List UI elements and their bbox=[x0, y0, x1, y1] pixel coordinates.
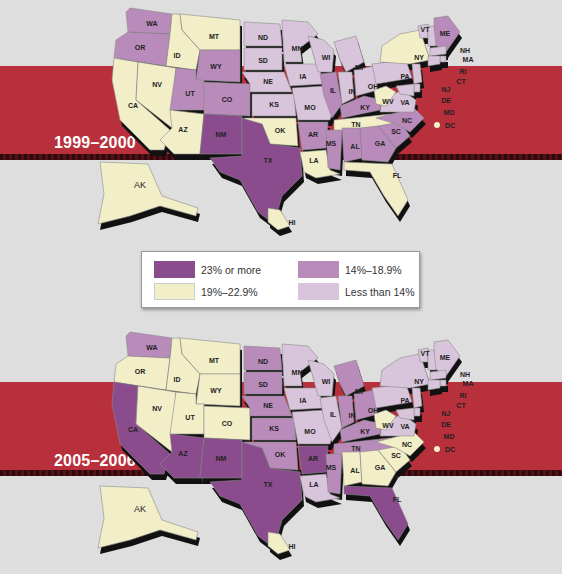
legend-swatch bbox=[298, 261, 339, 278]
state-label-ut: UT bbox=[185, 90, 194, 97]
state-label-de: DE bbox=[441, 421, 451, 428]
state-label-nj: NJ bbox=[442, 86, 451, 93]
state-label-mi: MI bbox=[355, 388, 363, 395]
state-label-ky: KY bbox=[360, 104, 370, 111]
us-map-1999-2000: WAORCANVIDMTWYUTCOAZNMNDSDNEKSOKTXMNIAMO… bbox=[0, 0, 562, 250]
state-label-dc: DC bbox=[445, 122, 455, 129]
state-label-ri: RI bbox=[460, 392, 467, 399]
state-label-ms: MS bbox=[326, 464, 337, 471]
state-nj bbox=[412, 64, 422, 84]
legend-item-19-22: 19%–22.9% bbox=[154, 283, 258, 300]
state-label-mo: MO bbox=[304, 428, 315, 435]
state-label-fl: FL bbox=[393, 496, 402, 503]
state-de bbox=[414, 408, 420, 416]
dc-marker bbox=[434, 122, 440, 128]
state-label-ms: MS bbox=[326, 140, 337, 147]
state-label-ar: AR bbox=[308, 131, 318, 138]
state-label-ok: OK bbox=[275, 451, 286, 458]
legend-item-23-plus: 23% or more bbox=[154, 261, 261, 278]
legend-label: 14%–18.9% bbox=[345, 264, 402, 276]
state-label-me: ME bbox=[440, 354, 451, 361]
state-label-mo: MO bbox=[304, 104, 315, 111]
legend-swatch bbox=[154, 261, 195, 278]
state-label-nm: NM bbox=[216, 131, 227, 138]
state-label-sd: SD bbox=[258, 381, 268, 388]
state-label-tx: TX bbox=[264, 481, 273, 488]
state-label-ne: NE bbox=[263, 402, 273, 409]
state-label-me: ME bbox=[440, 30, 451, 37]
state-ma bbox=[430, 370, 446, 380]
state-label-wa: WA bbox=[146, 20, 157, 27]
state-label-tn: TN bbox=[351, 445, 360, 452]
state-label-mt: MT bbox=[209, 357, 219, 364]
state-label-wv: WV bbox=[382, 98, 393, 105]
legend-swatch bbox=[154, 283, 195, 300]
state-label-ct: CT bbox=[456, 402, 465, 409]
state-label-ak: AK bbox=[134, 180, 146, 190]
state-label-ca: CA bbox=[128, 426, 138, 433]
state-label-nc: NC bbox=[402, 117, 412, 124]
state-label-mn: MN bbox=[292, 369, 303, 376]
state-label-nd: ND bbox=[258, 34, 268, 41]
state-label-hi: HI bbox=[289, 219, 296, 226]
state-label-dc: DC bbox=[445, 446, 455, 453]
state-label-sc: SC bbox=[391, 128, 401, 135]
state-label-nm: NM bbox=[216, 455, 227, 462]
state-label-sd: SD bbox=[258, 57, 268, 64]
state-label-ny: NY bbox=[414, 378, 424, 385]
state-label-mi: MI bbox=[355, 64, 363, 71]
state-label-pa: PA bbox=[400, 397, 409, 404]
state-ct bbox=[428, 56, 440, 66]
state-label-il: IL bbox=[330, 87, 336, 94]
state-label-ne: NE bbox=[263, 78, 273, 85]
legend-label: 23% or more bbox=[201, 264, 261, 276]
legend-label: 19%–22.9% bbox=[201, 286, 258, 298]
state-label-pa: PA bbox=[400, 73, 409, 80]
us-map-2005-2006: WAORCANVIDMTWYUTCOAZNMNDSDNEKSOKTXMNIAMO… bbox=[0, 316, 562, 574]
state-label-al: AL bbox=[350, 143, 359, 150]
state-label-wy: WY bbox=[210, 387, 221, 394]
state-label-or: OR bbox=[135, 44, 146, 51]
state-label-va: VA bbox=[400, 423, 409, 430]
state-label-md: MD bbox=[444, 433, 455, 440]
state-label-id: ID bbox=[174, 376, 181, 383]
state-label-ks: KS bbox=[269, 101, 279, 108]
state-ms bbox=[326, 454, 342, 494]
state-label-sc: SC bbox=[391, 452, 401, 459]
state-label-fl: FL bbox=[393, 172, 402, 179]
state-label-az: AZ bbox=[178, 450, 187, 457]
state-label-ak: AK bbox=[134, 504, 146, 514]
state-label-ks: KS bbox=[269, 425, 279, 432]
state-label-ma: MA bbox=[463, 56, 474, 63]
state-label-md: MD bbox=[444, 109, 455, 116]
state-ma bbox=[430, 46, 446, 56]
state-label-oh: OH bbox=[368, 407, 379, 414]
dc-marker bbox=[434, 446, 440, 452]
state-label-ar: AR bbox=[308, 455, 318, 462]
state-nj bbox=[412, 388, 422, 408]
state-label-nh: NH bbox=[460, 47, 470, 54]
state-label-ut: UT bbox=[185, 414, 194, 421]
state-label-al: AL bbox=[350, 467, 359, 474]
state-label-or: OR bbox=[135, 368, 146, 375]
state-label-nj: NJ bbox=[442, 410, 451, 417]
state-label-in: IN bbox=[349, 412, 356, 419]
state-label-nd: ND bbox=[258, 358, 268, 365]
state-label-nh: NH bbox=[460, 371, 470, 378]
legend-item-lt14: Less than 14% bbox=[298, 283, 414, 300]
state-label-mt: MT bbox=[209, 33, 219, 40]
state-label-ct: CT bbox=[456, 78, 465, 85]
state-label-wv: WV bbox=[382, 422, 393, 429]
state-label-co: CO bbox=[222, 420, 233, 427]
state-label-az: AZ bbox=[178, 126, 187, 133]
state-label-ga: GA bbox=[375, 464, 386, 471]
state-fl bbox=[344, 162, 408, 216]
state-label-il: IL bbox=[330, 411, 336, 418]
state-label-mn: MN bbox=[292, 45, 303, 52]
state-label-ky: KY bbox=[360, 428, 370, 435]
state-label-wa: WA bbox=[146, 344, 157, 351]
state-label-vt: VT bbox=[421, 350, 430, 357]
state-label-wi: WI bbox=[322, 54, 331, 61]
state-label-id: ID bbox=[174, 52, 181, 59]
state-label-wi: WI bbox=[322, 378, 331, 385]
